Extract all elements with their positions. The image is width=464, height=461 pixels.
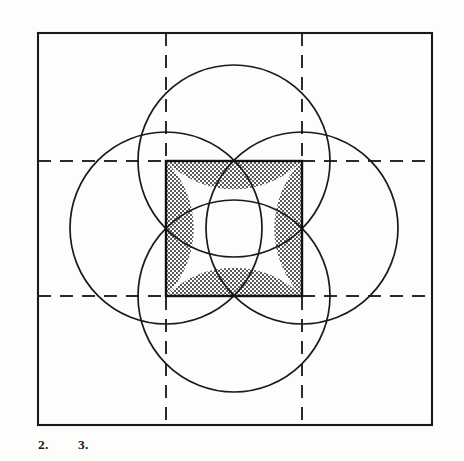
caption-item-2: 2. — [38, 437, 49, 453]
geometry-diagram — [0, 0, 464, 461]
caption-item-3: 3. — [78, 437, 89, 453]
caption-row: 2. 3. — [0, 429, 464, 455]
figure-root: 2. 3. — [0, 0, 464, 461]
